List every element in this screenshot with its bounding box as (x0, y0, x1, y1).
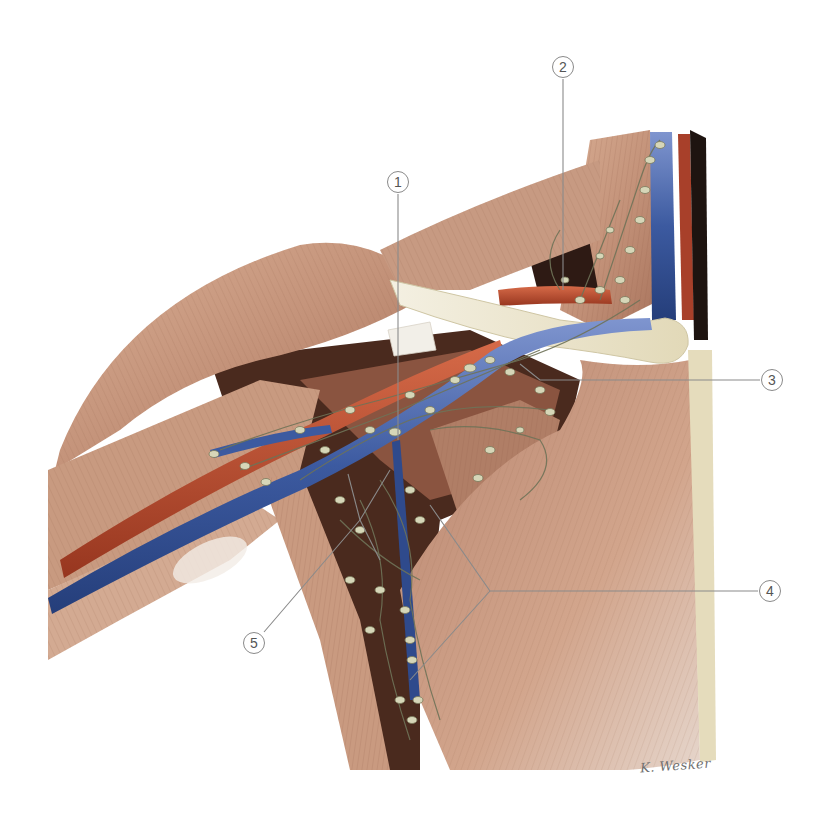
illustration-canvas (0, 0, 836, 828)
callout-label-5: 5 (243, 632, 265, 654)
callout-label-3: 3 (761, 369, 783, 391)
callout-label-1: 1 (387, 171, 409, 193)
callout-label-2: 2 (552, 56, 574, 78)
callout-label-4: 4 (759, 580, 781, 602)
coracoid-tendon (388, 322, 436, 356)
anatomical-illustration: 1 2 3 4 5 K. Wesker (0, 0, 836, 828)
